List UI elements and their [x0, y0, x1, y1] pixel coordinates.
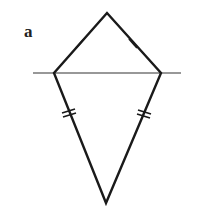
kite-outline — [54, 13, 161, 203]
double-tick-marks — [62, 109, 151, 118]
kite-diagram: a — [0, 0, 205, 214]
figure-label: a — [24, 22, 33, 41]
single-tick-marks — [76, 39, 137, 48]
tick-upper-left — [76, 39, 84, 48]
